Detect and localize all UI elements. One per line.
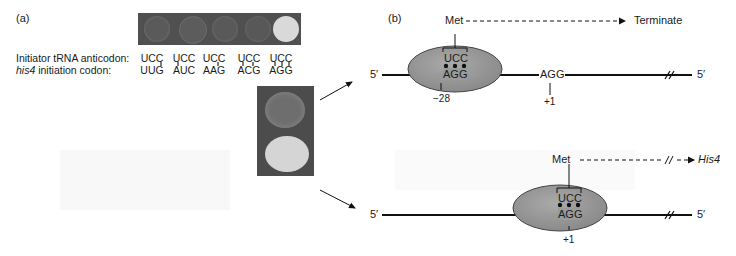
- top-amino-acid: Met: [445, 14, 463, 26]
- bottom-five-prime-right: 5′: [697, 208, 705, 220]
- top-second-codon: AGG: [539, 68, 565, 80]
- bottom-position-paired: +1: [563, 234, 574, 245]
- top-paired-codon: AGG: [443, 68, 467, 80]
- his4-gene-label: His4: [698, 153, 720, 165]
- bottom-amino-acid: Met: [552, 153, 570, 165]
- bottom-outcome: His4: [698, 153, 720, 165]
- top-five-prime-left: 5′: [370, 68, 378, 80]
- top-anticodon: UCC: [444, 52, 468, 64]
- top-position-second: +1: [544, 96, 555, 107]
- top-diagram: [382, 21, 692, 95]
- bottom-five-prime-left: 5′: [370, 208, 378, 220]
- bottom-anticodon: UCC: [558, 192, 582, 204]
- top-five-prime-right: 5′: [697, 68, 705, 80]
- top-position-paired: −28: [433, 93, 450, 104]
- translation-diagrams: [0, 0, 736, 256]
- top-outcome: Terminate: [634, 14, 682, 26]
- bottom-paired-codon: AGG: [558, 208, 582, 220]
- bottom-diagram: [382, 156, 694, 231]
